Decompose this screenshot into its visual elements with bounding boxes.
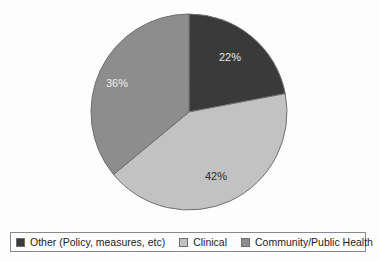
pie-slices-group xyxy=(91,14,287,210)
legend-label-clinical: Clinical xyxy=(193,237,227,248)
legend-item-community-public-health[interactable]: Community/Public Health xyxy=(241,237,373,248)
legend-item-clinical[interactable]: Clinical xyxy=(179,237,227,248)
legend-label-other: Other (Policy, measures, etc) xyxy=(30,237,165,248)
pie-slice-value-label: 36% xyxy=(106,77,128,89)
legend-swatch-other-icon xyxy=(16,238,25,247)
pie-chart-svg: 22%42%36% xyxy=(0,0,379,225)
pie-slice-value-label: 42% xyxy=(205,170,227,182)
pie-chart-figure: 22%42%36% Other (Policy, measures, etc) … xyxy=(0,0,379,261)
legend-item-other[interactable]: Other (Policy, measures, etc) xyxy=(16,237,165,248)
legend-swatch-clinical-icon xyxy=(179,238,188,247)
legend-label-community-public-health: Community/Public Health xyxy=(255,237,373,248)
pie-slice-value-label: 22% xyxy=(219,51,241,63)
pie-chart-plot-area: 22%42%36% xyxy=(0,0,379,225)
chart-legend: Other (Policy, measures, etc) Clinical C… xyxy=(10,232,366,252)
legend-swatch-community-public-health-icon xyxy=(241,238,250,247)
